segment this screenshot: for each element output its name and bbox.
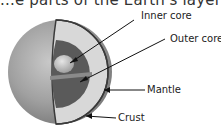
label-crust: Crust (118, 112, 145, 124)
label-inner-core: Inner core (141, 10, 192, 22)
label-outer-core: Outer core (170, 33, 221, 45)
inner-core-section (54, 55, 74, 73)
label-mantle: Mantle (147, 84, 181, 96)
